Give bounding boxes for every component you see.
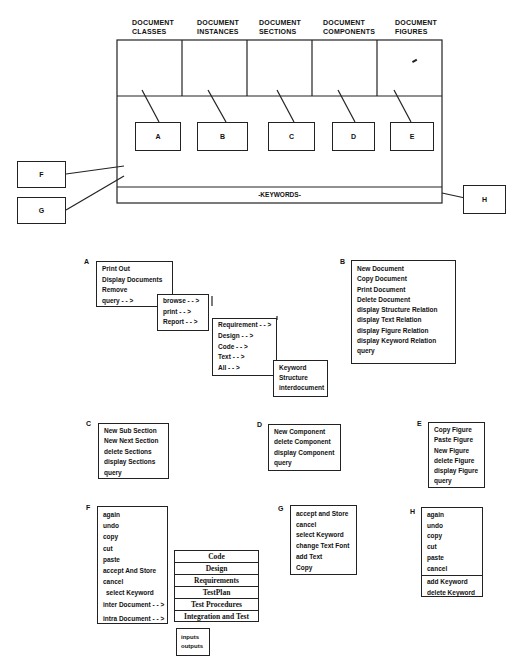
menu-item-inter-document[interactable]: inter Document - - > [103,599,162,610]
menu-item-delete-sections[interactable]: delete Sections [104,447,163,457]
header-line1: DOCUMENT [259,18,301,27]
menu-item-structure[interactable]: Structure [279,373,322,383]
menu-item-intra-document[interactable]: intra Document - - > [103,613,162,624]
menu-item-delete-figure[interactable]: delete Figure [434,456,479,466]
menu-item-new-component[interactable]: New Component [274,427,335,437]
callout-label: E [391,133,433,140]
menu-item-display-figure-relation[interactable]: display Figure Relation [357,326,450,336]
menu-item-cancel[interactable]: cancel [296,520,351,531]
menu-f: again undo copy cut paste accept And Sto… [97,506,168,624]
menu-item-cut[interactable]: cut [427,542,477,553]
menu-item-requirement[interactable]: Requirement - - > [218,320,271,331]
menu-item-query[interactable]: query [434,476,479,486]
menu-item-outputs[interactable]: outputs [181,642,205,651]
menu-f-key: F [86,504,90,511]
menu-item-code[interactable]: Code [175,551,258,563]
menu-item-display-keyword-relation[interactable]: display Keyword Relation [357,336,450,346]
callout-e: E [390,122,434,151]
menu-item-again[interactable]: again [103,509,162,520]
menu-item-inputs[interactable]: inputs [181,633,205,642]
menu-item-interdocument[interactable]: interdocument [279,383,322,393]
menu-item-text[interactable]: Text - - > [218,352,271,363]
menu-h-key: H [410,508,415,515]
menu-item-code[interactable]: Code - - > [218,342,271,353]
menu-item-add-text[interactable]: add Text [296,552,351,563]
menu-item-copy[interactable]: Copy [296,563,351,574]
menu-divider [422,575,482,576]
menu-a-query-submenu: browse - - > print - - > Report - - > [157,294,209,331]
menu-item-query[interactable]: query [104,468,163,478]
menu-a-report-submenu: Requirement - - > Design - - > Code - - … [212,318,277,376]
pane-document-instances[interactable] [183,41,246,95]
menu-item-delete-document[interactable]: Delete Document [357,295,450,305]
menu-item-copy-document[interactable]: Copy Document [357,274,450,284]
menu-item-change-text-font[interactable]: change Text Font [296,541,351,552]
menu-item-cancel[interactable]: cancel [427,564,477,575]
menu-item-new-document[interactable]: New Document [357,264,450,274]
menu-e-key: E [417,420,422,427]
menu-item-delete-keyword[interactable]: delete Keyword [427,588,477,599]
menu-item-undo[interactable]: undo [103,520,162,531]
callout-label: G [18,207,65,214]
menu-item-display-text-relation[interactable]: display Text Relation [357,315,450,325]
menu-item-add-keyword[interactable]: add Keyword [427,577,477,588]
menu-item-query[interactable]: query [274,458,335,468]
menu-c: New Sub Section New Next Section delete … [98,423,169,479]
menu-item-paste[interactable]: paste [103,554,162,565]
menu-item-display-documents[interactable]: Display Documents [102,275,167,286]
menu-item-display-structure-relation[interactable]: display Structure Relation [357,305,450,315]
keywords-bar[interactable]: -KEYWORDS- [118,188,441,202]
menu-item-display-sections[interactable]: display Sections [104,457,163,467]
menu-item-all[interactable]: All - - > [218,363,271,374]
menu-item-paste-figure[interactable]: Paste Figure [434,435,479,445]
pane-document-sections[interactable] [248,41,311,95]
menu-item-report[interactable]: Report - - > [163,317,203,328]
menu-item-integration-and-test[interactable]: Integration and Test [175,611,258,622]
menu-d: New Component delete Component display C… [268,424,341,471]
menu-item-new-figure[interactable]: New Figure [434,446,479,456]
menu-item-cut[interactable]: cut [103,543,162,554]
menu-item-copy[interactable]: copy [103,531,162,542]
header-document-components: DOCUMENT COMPONENTS [323,18,375,36]
menu-item-new-next-section[interactable]: New Next Section [104,436,163,446]
header-line2: SECTIONS [259,27,301,36]
menu-item-paste[interactable]: paste [427,553,477,564]
menu-item-test-procedures[interactable]: Test Procedures [175,599,258,611]
menu-item-keyword[interactable]: Keyword [279,363,322,373]
header-line2: INSTANCES [197,27,239,36]
header-line1: DOCUMENT [197,18,239,27]
menu-item-copy-figure[interactable]: Copy Figure [434,425,479,435]
menu-item-print-document[interactable]: Print Document [357,285,450,295]
callout-label: B [198,133,247,140]
menu-item-cancel[interactable]: cancel [103,576,162,587]
menu-a-all-submenu: Keyword Structure interdocument [273,360,328,397]
menu-item-accept-and-store[interactable]: accept And Store [103,565,162,576]
menu-a-key: A [84,258,89,265]
menu-item-query[interactable]: query [357,346,450,356]
menu-item-select-keyword[interactable]: select Keyword [103,587,162,598]
menu-item-print-out[interactable]: Print Out [102,264,167,275]
menu-f-inter-document-submenu: Code Design Requirements TestPlan Test P… [174,550,259,622]
menu-item-browse[interactable]: browse - - > [163,296,203,307]
menu-item-design[interactable]: Design - - > [218,331,271,342]
menu-item-select-keyword[interactable]: select Keyword [296,530,351,541]
menu-item-design[interactable]: Design [175,563,258,575]
menu-item-testplan[interactable]: TestPlan [175,587,258,599]
menu-item-accept-and-store[interactable]: accept and Store [296,509,351,520]
menu-item-again[interactable]: again [427,510,477,521]
menu-item-print[interactable]: print - - > [163,307,203,318]
menu-item-new-sub-section[interactable]: New Sub Section [104,426,163,436]
menu-item-display-component[interactable]: display Component [274,448,335,458]
pane-document-figures[interactable] [378,41,441,95]
menu-g: accept and Store cancel select Keyword c… [290,505,357,575]
callout-h: H [463,185,506,214]
pane-document-classes[interactable] [118,41,181,95]
pane-document-components[interactable] [313,41,376,95]
menu-item-display-figure[interactable]: display Figure [434,466,479,476]
menu-item-requirements[interactable]: Requirements [175,575,258,587]
menu-item-delete-component[interactable]: delete Component [274,437,335,447]
menu-item-copy[interactable]: copy [427,531,477,542]
header-document-sections: DOCUMENT SECTIONS [259,18,301,36]
menu-item-undo[interactable]: undo [427,521,477,532]
cursor-mark-icon [412,59,417,63]
